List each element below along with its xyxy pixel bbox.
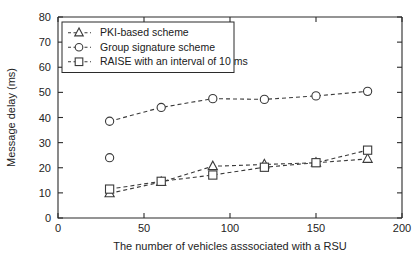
data-point-circle	[106, 117, 114, 125]
y-axis-title: Message delay (ms)	[5, 68, 17, 167]
data-point-circle	[209, 95, 217, 103]
y-tick-label: 30	[39, 137, 51, 149]
y-tick-label: 60	[39, 61, 51, 73]
square-icon	[75, 58, 83, 66]
data-point-square	[106, 185, 114, 193]
data-point-square	[209, 171, 217, 179]
circle-icon	[75, 43, 83, 51]
message-delay-line-chart: 01020304050607080050100150200 The number…	[0, 0, 420, 263]
data-point-square	[312, 159, 320, 167]
data-point-circle	[312, 92, 320, 100]
x-axis-title: The number of vehicles asssociated with …	[113, 240, 347, 252]
data-point-circle	[260, 95, 268, 103]
data-point-circle	[364, 87, 372, 95]
series-line-circle	[110, 91, 368, 121]
data-point-circle-outlier	[106, 154, 114, 162]
y-tick-label: 0	[45, 212, 51, 224]
chart-legend: PKI-based schemeGroup signature schemeRA…	[62, 22, 248, 73]
chart-figure: 01020304050607080050100150200 The number…	[0, 0, 420, 263]
x-tick-label: 0	[55, 222, 61, 234]
x-tick-label: 150	[307, 222, 325, 234]
y-tick-label: 40	[39, 112, 51, 124]
chart-series	[105, 87, 372, 196]
series-line-triangle	[110, 159, 368, 193]
data-point-square	[260, 163, 268, 171]
data-point-circle	[157, 103, 165, 111]
data-point-square	[364, 146, 372, 154]
y-tick-label: 80	[39, 11, 51, 23]
x-tick-label: 100	[221, 222, 239, 234]
legend-label: PKI-based scheme	[100, 26, 189, 38]
y-tick-label: 70	[39, 36, 51, 48]
data-point-triangle	[208, 161, 217, 170]
legend-label: RAISE with an interval of 10 ms	[100, 55, 248, 67]
y-tick-label: 20	[39, 162, 51, 174]
series-line-square	[110, 150, 368, 189]
legend-label: Group signature scheme	[100, 41, 215, 53]
data-point-square	[157, 177, 165, 185]
y-tick-label: 10	[39, 187, 51, 199]
y-tick-label: 50	[39, 86, 51, 98]
x-tick-label: 200	[393, 222, 411, 234]
data-point-triangle	[363, 154, 372, 163]
x-tick-label: 50	[138, 222, 150, 234]
